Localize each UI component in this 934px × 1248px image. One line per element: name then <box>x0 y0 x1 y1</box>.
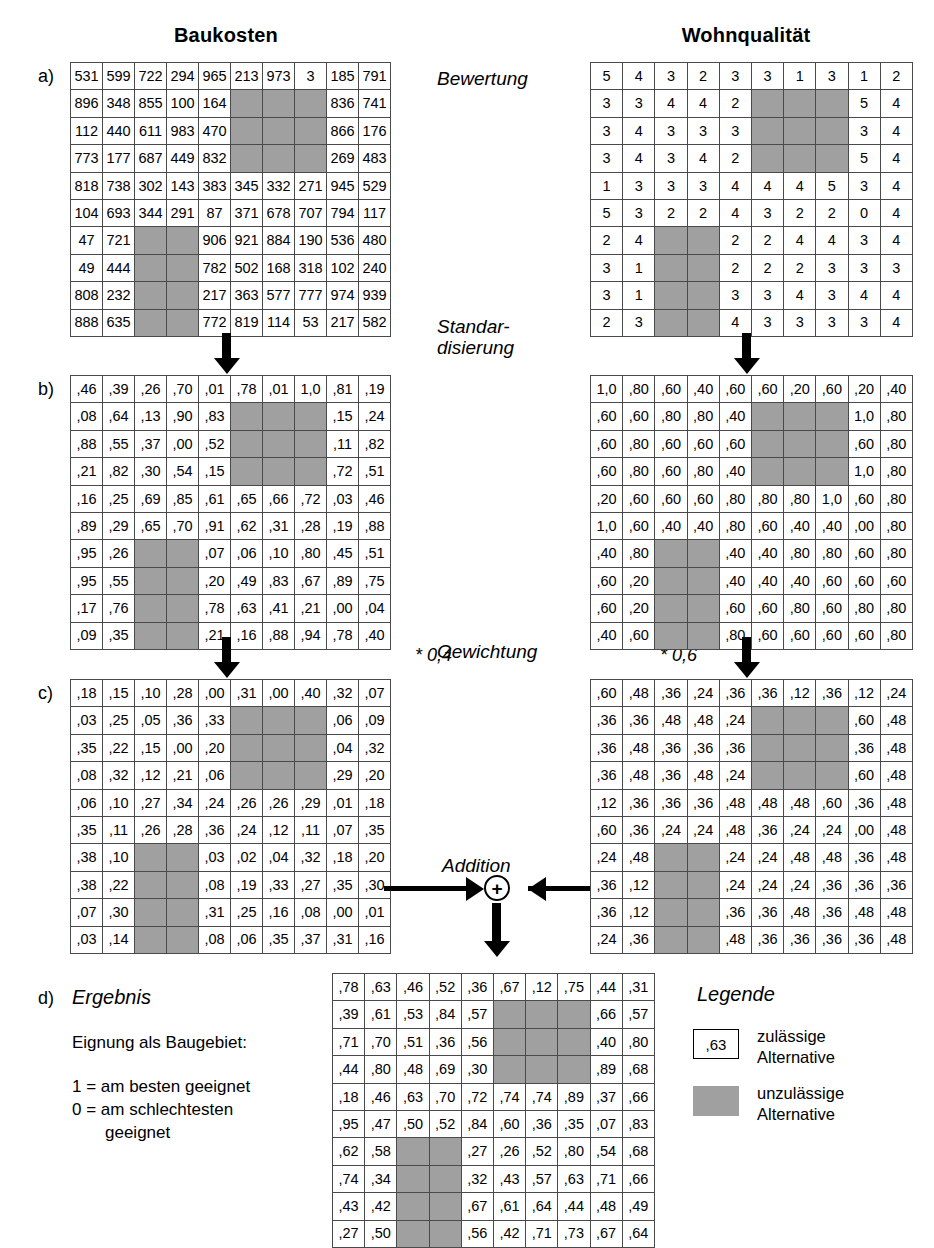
matrix-cell: 4 <box>784 227 816 254</box>
matrix-cell: ,67 <box>295 567 327 594</box>
matrix-cell-disallowed <box>295 707 327 734</box>
matrix-cell: ,27 <box>295 871 327 898</box>
matrix-cell: ,00 <box>263 680 295 707</box>
matrix-cell-disallowed <box>295 117 327 144</box>
legend-swatch-allowed: ,63 <box>693 1029 739 1059</box>
matrix-cell: ,48 <box>623 734 655 761</box>
matrix-cell: 4 <box>655 90 687 117</box>
matrix-cell: 2 <box>816 199 848 226</box>
matrix-cell: ,67 <box>493 974 525 1001</box>
matrix-cell: ,63 <box>558 1165 590 1192</box>
matrix-row: ,60,20,40,40,40,60,60,60 <box>591 567 913 594</box>
matrix-cell-disallowed <box>167 899 199 926</box>
matrix-cell-disallowed <box>295 762 327 789</box>
matrix-cell: ,00 <box>199 680 231 707</box>
matrix-cell: 1 <box>591 172 623 199</box>
matrix-cell: ,50 <box>397 1110 429 1137</box>
matrix-cell: ,36 <box>623 707 655 734</box>
matrix-cell: ,20 <box>359 844 391 871</box>
matrix-cell: ,43 <box>333 1193 365 1220</box>
matrix-cell: 4 <box>880 172 912 199</box>
matrix-cell: 2 <box>687 199 719 226</box>
matrix-wohnqualitaet-bewertung: 5432331312334425434333343434254133344453… <box>590 62 913 337</box>
matrix-cell: ,08 <box>199 871 231 898</box>
matrix-cell-disallowed <box>167 254 199 281</box>
matrix-cell: ,07 <box>590 1110 622 1137</box>
matrix-cell: 2 <box>591 309 623 336</box>
matrix-cell: ,60 <box>848 485 880 512</box>
matrix-cell-disallowed <box>816 145 848 172</box>
matrix-cell: ,20 <box>623 595 655 622</box>
ergebnis-caption: Eignung als Baugebiet: <box>72 1031 247 1055</box>
matrix-cell: ,48 <box>623 680 655 707</box>
matrix-cell: ,24 <box>784 816 816 843</box>
matrix-cell-disallowed <box>397 1165 429 1192</box>
matrix-cell: ,24 <box>687 816 719 843</box>
step-label-standardisierung: Standar- disierung <box>437 316 514 359</box>
matrix-row: 896348855100164836741 <box>71 90 391 117</box>
matrix-cell: 4 <box>816 227 848 254</box>
matrix-cell: ,54 <box>167 458 199 485</box>
matrix-cell: ,12 <box>263 816 295 843</box>
matrix-cell-disallowed <box>784 403 816 430</box>
matrix-cell: 855 <box>135 90 167 117</box>
matrix-cell: 383 <box>199 172 231 199</box>
step-label-gewichtung: Gewichtung <box>437 641 537 662</box>
matrix-row: ,88,55,37,00,52,11,82 <box>71 430 391 457</box>
matrix-cell-disallowed <box>655 899 687 926</box>
matrix-cell: ,69 <box>135 485 167 512</box>
matrix-cell: ,40 <box>591 622 623 649</box>
matrix-cell-disallowed <box>295 145 327 172</box>
matrix-cell: ,36 <box>526 1110 558 1137</box>
matrix-cell-disallowed <box>784 762 816 789</box>
matrix-cell-disallowed <box>231 458 263 485</box>
matrix-row: ,16,25,69,85,61,65,66,72,03,46 <box>71 485 391 512</box>
matrix-cell: 168 <box>263 254 295 281</box>
step-label-standardisierung-line1: Standar- <box>437 316 514 337</box>
matrix-cell: ,61 <box>493 1193 525 1220</box>
matrix-row: 49444782502168318102240 <box>71 254 391 281</box>
matrix-cell: ,48 <box>590 1193 622 1220</box>
matrix-cell: ,26 <box>135 376 167 403</box>
matrix-cell: ,71 <box>333 1028 365 1055</box>
matrix-cell: ,19 <box>359 376 391 403</box>
matrix-cell-disallowed <box>263 458 295 485</box>
matrix-cell: ,74 <box>333 1165 365 1192</box>
matrix-cell: ,24 <box>655 816 687 843</box>
matrix-cell: ,00 <box>848 512 880 539</box>
matrix-cell: ,60 <box>623 485 655 512</box>
matrix-cell: ,80 <box>816 540 848 567</box>
matrix-cell: 1,0 <box>591 376 623 403</box>
matrix-cell: ,18 <box>327 844 359 871</box>
ergebnis-scale-line-3: geeignet <box>105 1121 170 1145</box>
matrix-cell: 773 <box>71 145 103 172</box>
matrix-cell: ,66 <box>622 1165 654 1192</box>
matrix-cell: 4 <box>880 227 912 254</box>
matrix-cell: 836 <box>327 90 359 117</box>
matrix-cell: ,60 <box>623 512 655 539</box>
matrix-cell: ,32 <box>461 1165 493 1192</box>
matrix-row: 23433334 <box>591 309 913 336</box>
matrix-cell: 3 <box>655 145 687 172</box>
matrix-cell-disallowed <box>263 145 295 172</box>
matrix-cell: 5 <box>848 145 880 172</box>
legend-swatch-disallowed <box>693 1086 739 1116</box>
matrix-cell: ,36 <box>655 680 687 707</box>
arrow-down-baukosten-a-to-b <box>222 333 231 359</box>
matrix-cell: ,48 <box>880 926 912 953</box>
matrix-row: ,60,36,24,24,48,36,24,24,00,48 <box>591 816 913 843</box>
matrix-cell: ,03 <box>199 844 231 871</box>
matrix-cell: ,52 <box>429 974 461 1001</box>
matrix-cell-disallowed <box>526 1001 558 1028</box>
matrix-cell-disallowed <box>231 707 263 734</box>
matrix-cell: ,16 <box>263 899 295 926</box>
matrix-row: ,74,34,32,43,57,63,71,66 <box>333 1165 655 1192</box>
matrix-cell: ,95 <box>71 540 103 567</box>
matrix-cell: ,60 <box>655 485 687 512</box>
matrix-cell: ,01 <box>263 376 295 403</box>
matrix-cell: 1 <box>623 282 655 309</box>
matrix-cell: 3 <box>623 199 655 226</box>
matrix-cell-disallowed <box>655 622 687 649</box>
matrix-cell: ,48 <box>655 707 687 734</box>
matrix-cell-disallowed <box>231 734 263 761</box>
